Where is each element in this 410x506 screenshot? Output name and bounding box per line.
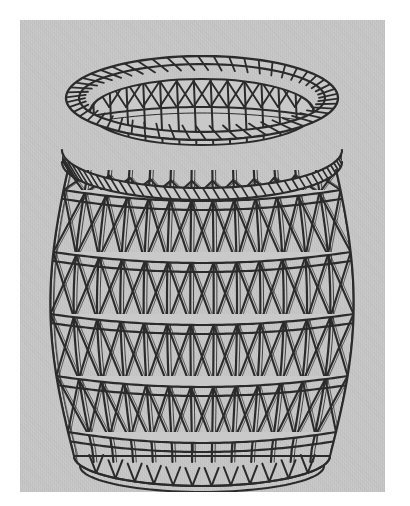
figure-root	[0, 0, 410, 506]
basket-body-weave	[50, 164, 357, 462]
illustration-panel	[20, 20, 385, 492]
basket-illustration	[20, 20, 385, 492]
